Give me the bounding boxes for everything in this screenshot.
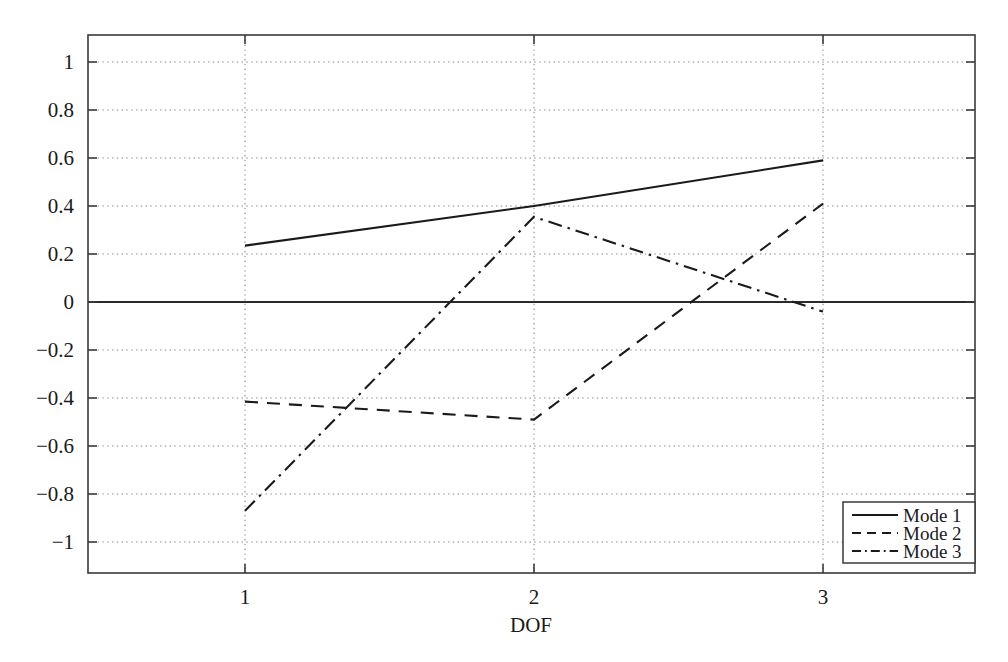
line-chart: 10.80.60.40.20−0.2−0.4−0.6−0.8−1 123 DOF… — [0, 0, 1008, 662]
x-tick-label: 2 — [529, 585, 540, 609]
x-tick-label: 1 — [240, 585, 251, 609]
y-tick-label: 0 — [64, 290, 75, 314]
y-tick-label: −1 — [52, 530, 74, 554]
y-tick-label: 0.2 — [48, 242, 74, 266]
y-tick-label: −0.8 — [36, 482, 74, 506]
x-axis-title: DOF — [510, 613, 552, 637]
y-tick-label: 0.6 — [48, 146, 74, 170]
y-tick-label: −0.4 — [36, 386, 75, 410]
x-tick-label: 3 — [818, 585, 829, 609]
y-tick-label: −0.2 — [36, 338, 74, 362]
y-tick-label: 1 — [64, 50, 75, 74]
y-tick-label: 0.4 — [48, 194, 75, 218]
y-tick-label: 0.8 — [48, 98, 74, 122]
legend-label-3: Mode 3 — [903, 541, 962, 562]
chart-legend: Mode 1Mode 2Mode 3 — [843, 502, 975, 563]
chart-figure: 10.80.60.40.20−0.2−0.4−0.6−0.8−1 123 DOF… — [0, 0, 1008, 662]
y-tick-label: −0.6 — [36, 434, 74, 458]
